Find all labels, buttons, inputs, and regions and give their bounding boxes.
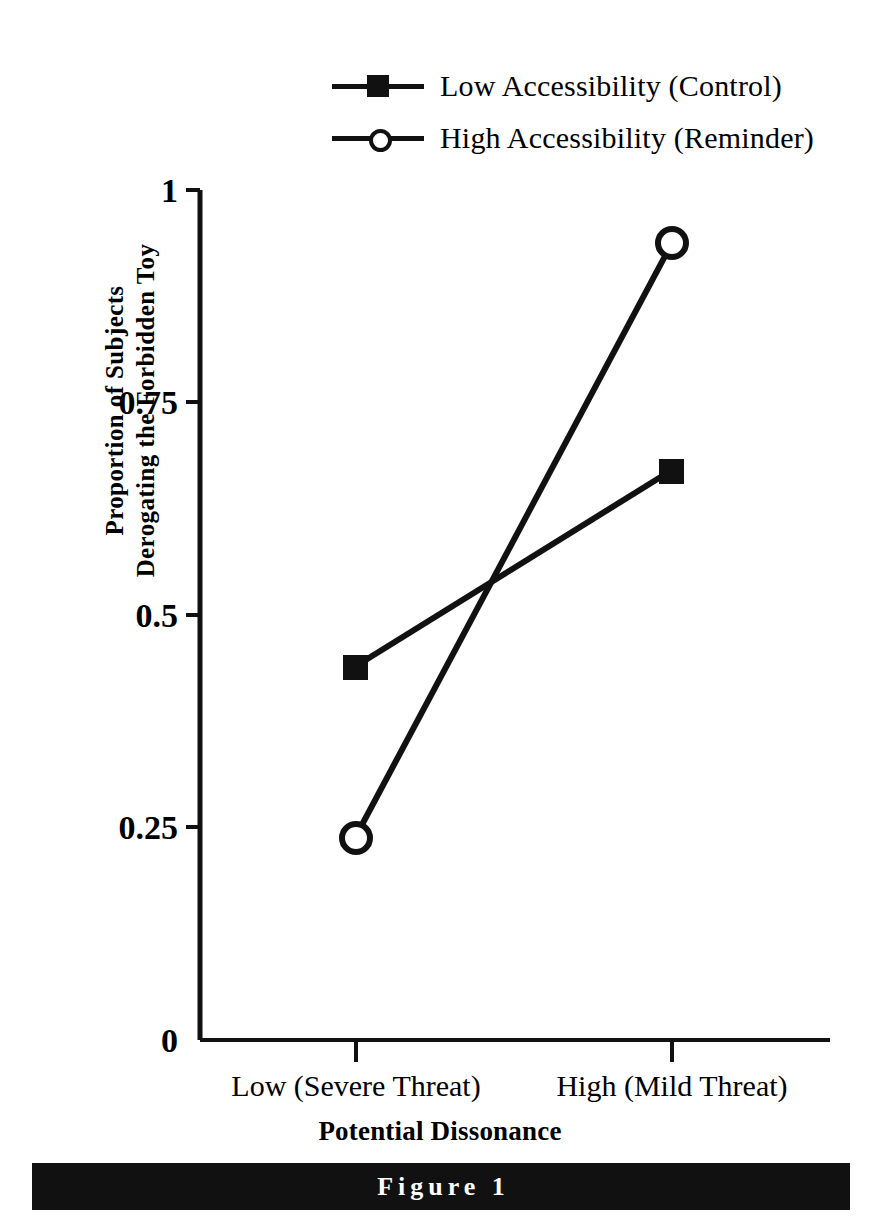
- data-point-marker[interactable]: [342, 824, 370, 852]
- data-point-marker[interactable]: [658, 229, 686, 257]
- figure-caption-text: Figure 1: [372, 1172, 510, 1202]
- series-line: [356, 243, 672, 836]
- data-point-marker[interactable]: [343, 655, 368, 680]
- y-axis-title-line1: Proportion of Subjects: [100, 181, 131, 641]
- x-tick-label: High (Mild Threat): [556, 1069, 787, 1103]
- x-tick-label: Low (Severe Threat): [231, 1069, 480, 1103]
- figure-container: Low Accessibility (Control) High Accessi…: [0, 0, 876, 1221]
- y-axis-title: Proportion of Subjects Derogating the Fo…: [100, 181, 161, 641]
- series-high-accessibility: [342, 229, 686, 852]
- x-axis-ticks: [356, 1040, 672, 1062]
- y-tick-label: 1: [161, 172, 178, 209]
- data-point-marker[interactable]: [659, 459, 684, 484]
- y-tick-label: 0: [161, 1022, 178, 1059]
- series-low-accessibility: [343, 459, 684, 680]
- figure-caption-bar: Figure 1: [32, 1163, 850, 1210]
- y-tick-label: 0.25: [119, 809, 179, 846]
- y-axis-title-line2: Derogating the Forbidden Toy: [130, 181, 161, 641]
- x-axis-title: Potential Dissonance: [200, 1116, 680, 1147]
- series-line: [356, 470, 672, 666]
